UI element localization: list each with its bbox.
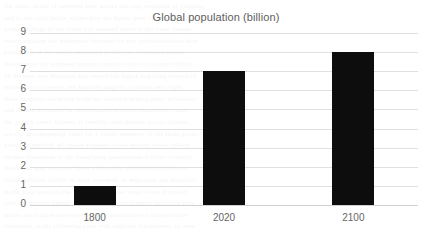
y-axis-tick-label: 6 xyxy=(2,83,26,94)
y-axis-tick-label: 2 xyxy=(2,160,26,171)
bar[interactable] xyxy=(74,186,116,205)
gridline xyxy=(30,33,418,34)
y-axis-tick-label: 0 xyxy=(2,198,26,209)
chart-title: Global population (billion) xyxy=(0,11,432,23)
x-axis-tick-label: 2100 xyxy=(313,212,393,223)
x-axis-tick-label: 2020 xyxy=(184,212,264,223)
x-axis-tick-label: 1800 xyxy=(55,212,135,223)
plot-area xyxy=(30,33,418,205)
y-axis-tick-label: 3 xyxy=(2,141,26,152)
y-axis-tick-label: 1 xyxy=(2,179,26,190)
y-axis-tick-label: 7 xyxy=(2,64,26,75)
gridline xyxy=(30,205,418,206)
y-axis-tick-label: 8 xyxy=(2,45,26,56)
y-axis-tick-label: 4 xyxy=(2,122,26,133)
bar-chart: the quiet record of numbers kept across … xyxy=(0,0,432,237)
y-axis-tick-label: 9 xyxy=(2,26,26,37)
y-axis-tick-label: 5 xyxy=(2,102,26,113)
bar[interactable] xyxy=(203,71,245,205)
bleed-line: the quiet record of numbers kept across … xyxy=(0,0,432,12)
y-axis: 9876543210 xyxy=(0,33,26,205)
bar[interactable] xyxy=(332,52,374,205)
